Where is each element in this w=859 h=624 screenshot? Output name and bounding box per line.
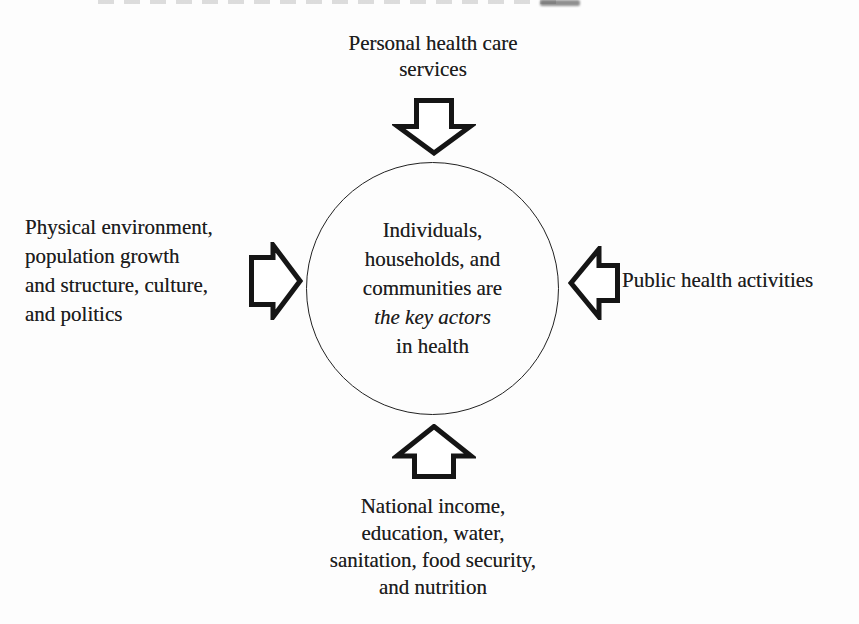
block-arrow-left-icon [568,246,620,320]
left-factor-label: Physical environment, population growth … [25,213,245,329]
block-arrow-up-icon [392,424,476,480]
block-arrow-right-icon [249,242,303,320]
diagram-canvas: Personal health care services Physical e… [0,0,859,624]
block-arrow-down-icon [392,98,476,156]
center-text-line: Individuals, [383,216,483,245]
right-factor-label: Public health activities [622,267,852,294]
top-factor-label: Personal health care services [283,30,583,82]
center-text-line: communities are [363,274,502,303]
central-circle: Individuals, households, and communities… [306,162,559,415]
center-text-line-italic: the key actors [374,303,491,332]
center-text-line: in health [396,332,469,361]
cropped-caption-artifact [98,0,560,4]
bottom-factor-label: National income, education, water, sanit… [272,493,594,601]
cropped-caption-artifact-blob [540,0,580,6]
center-text-line: households, and [365,245,500,274]
